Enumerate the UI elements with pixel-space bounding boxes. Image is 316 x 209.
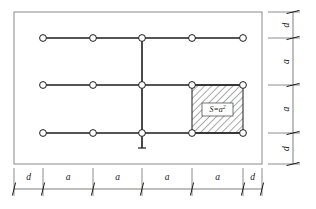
grid-node-r0-c3 xyxy=(189,35,196,42)
right-dimension-label-0: d xyxy=(281,22,291,27)
grid-node-r1-c2 xyxy=(139,82,146,89)
right-dimension-label-2: a xyxy=(281,106,291,111)
right-dimension-label-1: a xyxy=(281,59,291,64)
technical-diagram-canvas: S=a2 daaaad daad xyxy=(0,0,316,209)
grid-node-r2-c0 xyxy=(40,130,47,137)
grid-node-r2-c4 xyxy=(240,130,247,137)
grid-node-r2-c1 xyxy=(90,130,97,137)
grid-node-r0-c0 xyxy=(40,35,47,42)
right-dimension-label-3: d xyxy=(281,146,291,151)
bottom-dimension-label-0: d xyxy=(26,172,31,182)
bottom-dimension-label-2: a xyxy=(115,172,120,182)
bottom-dimension-label-5: d xyxy=(250,172,255,182)
bottom-dimension-label-4: a xyxy=(215,172,220,182)
grid-node-r1-c4 xyxy=(240,82,247,89)
grid-node-r1-c3 xyxy=(189,82,196,89)
grid-node-r2-c3 xyxy=(189,130,196,137)
area-label-text: S=a xyxy=(209,105,222,114)
diagram-svg: S=a2 daaaad daad xyxy=(0,0,316,209)
background xyxy=(0,0,316,209)
area-label-exponent: 2 xyxy=(223,104,226,110)
grid-node-r2-c2 xyxy=(139,130,146,137)
grid-node-r0-c4 xyxy=(240,35,247,42)
bottom-dimension-label-1: a xyxy=(66,172,71,182)
grid-node-r0-c1 xyxy=(90,35,97,42)
tributary-area: S=a2 xyxy=(192,85,243,133)
bottom-dimension-label-3: a xyxy=(165,172,170,182)
grid-node-r1-c1 xyxy=(90,82,97,89)
grid-node-r0-c2 xyxy=(139,35,146,42)
grid-node-r1-c0 xyxy=(40,82,47,89)
